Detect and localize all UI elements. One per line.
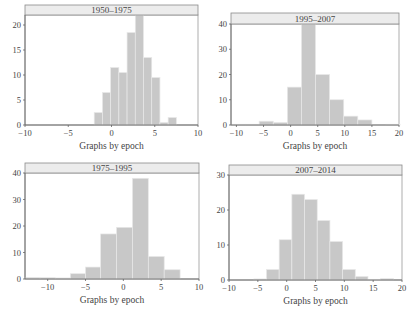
x-axis-label: Graphs by epoch [80,295,145,305]
histogram-bar [168,118,176,126]
x-tick-label: 20 [395,128,404,138]
histogram-bar [266,270,279,281]
histogram-bar [135,15,143,125]
panel-title: 1950–1975 [91,5,132,15]
y-tick-label: 0 [223,120,227,130]
histogram-bar [259,121,273,125]
histogram-bar [343,270,356,281]
histogram-panel-1975-1995-plot: 1975–1995010203040−10−50510Graphs by epo… [13,163,204,305]
y-tick-label: 5 [17,95,21,105]
histogram-bar [344,116,358,125]
x-tick-label: 10 [341,128,350,138]
y-tick-label: 20 [219,70,228,80]
y-tick-label: 20 [217,205,226,215]
histogram-bar [86,267,101,279]
x-tick-label: −10 [230,128,243,138]
histogram-bar [117,227,133,279]
panel-title: 1995–2007 [295,14,336,24]
x-tick-label: 5 [159,282,163,292]
x-tick-label: −5 [259,128,268,138]
histogram-bar [305,200,318,281]
histogram-panel-2007-2014-plot: 2007–20140102030−10−505101520Graphs by e… [217,165,407,306]
x-tick-label: 10 [194,128,203,138]
histogram-bar [127,33,135,126]
x-tick-label: 10 [195,282,204,292]
histogram-bar [102,93,110,126]
x-tick-label: 15 [368,128,377,138]
x-tick-label: −5 [253,283,262,293]
x-axis-label: Graphs by epoch [79,141,144,151]
panel-title: 1975–1995 [92,163,133,173]
histogram-bar [316,75,330,126]
histogram-panel-1995-2007-plot: 1995–2007010203040−10−505101520Graphs by… [219,13,404,151]
y-tick-label: 30 [219,44,228,54]
histogram-bar [301,24,315,125]
x-tick-label: −10 [222,283,235,293]
y-tick-label: 15 [13,45,22,55]
y-tick-label: 30 [217,170,226,180]
x-tick-label: 0 [288,128,292,138]
histogram-panel-1950-1975-plot: 1950–197505101520−10−50510Graphs by epoc… [13,5,203,151]
y-tick-label: 30 [13,195,22,205]
histogram-bar [330,242,343,281]
x-tick-label: 5 [316,128,320,138]
histogram-bar [152,78,160,126]
x-tick-label: 15 [369,283,378,293]
y-tick-label: 40 [219,19,228,29]
x-axis-label: Graphs by epoch [283,296,348,306]
histogram-bar [355,277,368,281]
histogram-bar [317,221,330,281]
figure-canvas: 1950–197505101520−10−50510Graphs by epoc… [0,0,413,317]
y-tick-label: 10 [217,240,226,250]
x-tick-label: 20 [398,283,407,293]
histogram-bar [164,270,180,279]
x-tick-label: 0 [121,282,125,292]
y-tick-label: 40 [13,168,22,178]
x-tick-label: 0 [109,128,113,138]
y-tick-label: 10 [13,70,22,80]
y-tick-label: 20 [13,221,22,231]
histogram-bar [101,234,117,279]
histogram-bar [330,100,344,125]
x-tick-label: 0 [285,283,289,293]
x-tick-label: 10 [340,283,349,293]
x-tick-label: 5 [313,283,317,293]
histogram-bar [292,194,305,280]
x-tick-label: −10 [41,282,54,292]
y-tick-label: 20 [13,20,22,30]
x-tick-label: −5 [81,282,90,292]
histogram-bar [111,68,119,126]
histogram-bar [70,274,85,279]
x-tick-label: 5 [153,128,157,138]
x-axis-label: Graphs by epoch [283,141,348,151]
x-tick-label: −10 [18,128,31,138]
histogram-bar [279,240,292,280]
histogram-bar [144,58,152,126]
histogram-bar [287,87,301,125]
histogram-bar [94,113,102,126]
histogram-bar [132,178,148,279]
panel-title: 2007–2014 [295,165,336,175]
y-tick-label: 0 [17,274,21,284]
y-tick-label: 10 [219,95,228,105]
x-tick-label: −5 [64,128,73,138]
histogram-bar [358,120,372,125]
y-tick-label: 10 [13,248,22,258]
histogram-bar [119,73,127,126]
histogram-bar [148,256,164,279]
